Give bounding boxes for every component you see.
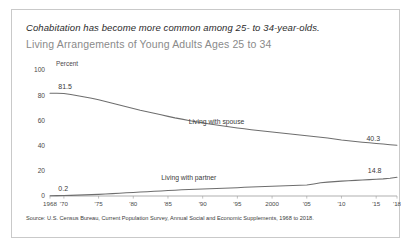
series-label-spouse: Living with spouse xyxy=(189,118,245,126)
x-axis-tick-label: '95 xyxy=(233,200,242,207)
y-axis-tick-label: 80 xyxy=(38,92,46,99)
source-note: Source: U.S. Census Bureau, Current Popu… xyxy=(26,215,394,221)
value-label-partner-end: 14.8 xyxy=(368,167,382,174)
y-axis-tick-label: 40 xyxy=(38,142,46,149)
value-label-spouse-end: 40.3 xyxy=(366,135,380,142)
y-axis-tick-label: 20 xyxy=(38,167,46,174)
x-axis-tick-label: '10 xyxy=(337,200,346,207)
x-axis-tick-label: '15 xyxy=(372,200,381,207)
y-axis-tick-label: 60 xyxy=(38,117,46,124)
y-axis-tick-label: 100 xyxy=(34,66,45,73)
series-label-partner: Living with partner xyxy=(161,174,217,182)
chart-card: Cohabitation has become more common amon… xyxy=(11,9,400,238)
x-axis-tick-label: '18 xyxy=(393,200,401,207)
y-axis-title: Percent xyxy=(56,60,78,67)
x-axis-tick-label: '85 xyxy=(164,200,173,207)
x-axis-tick-label: '90 xyxy=(199,200,208,207)
x-axis-tick-label: '75 xyxy=(95,200,104,207)
x-axis-tick-label: '05 xyxy=(303,200,312,207)
line-chart: 020406080100Percent1968'70'75'80'85'90'9… xyxy=(12,10,401,239)
x-axis-tick-label: '80 xyxy=(129,200,138,207)
x-axis-tick-label: '70 xyxy=(60,200,69,207)
y-axis-tick-label: 0 xyxy=(41,192,45,199)
value-label-spouse-start: 81.5 xyxy=(58,83,72,90)
series-line-partner xyxy=(50,177,397,195)
x-axis-tick-label: 1968 xyxy=(43,200,57,207)
x-axis-tick-label: 2000 xyxy=(265,200,279,207)
value-label-partner-start: 0.2 xyxy=(58,185,68,192)
